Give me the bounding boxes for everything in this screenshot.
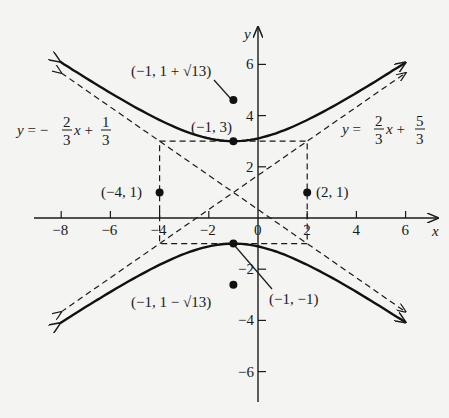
y-tick-label: 4 [246, 108, 254, 124]
eq-left-mid: x + [73, 122, 93, 138]
eq-left-lhs: y = − [15, 122, 48, 138]
eq-right-d1: 3 [375, 131, 383, 147]
x-tick-label: −2 [200, 222, 216, 238]
y-tick-label: 6 [246, 56, 254, 72]
point-focus [229, 96, 237, 104]
eq-left-d2: 3 [102, 132, 110, 148]
leader-focus-top [214, 80, 231, 99]
eq-left-d1: 3 [63, 132, 71, 148]
label-vertex-top: (−1, 3) [191, 119, 232, 136]
eq-right-n2: 5 [416, 113, 424, 129]
point-co-vertex [156, 188, 164, 196]
y-tick-label: −6 [238, 364, 254, 380]
x-tick-label: −6 [101, 222, 117, 238]
y-tick-label: −4 [238, 312, 254, 328]
x-tick-label: 0 [254, 222, 262, 238]
x-tick-label: −4 [151, 222, 167, 238]
point-co-vertex [303, 188, 311, 196]
label-covertex-right: (2, 1) [316, 184, 349, 201]
eq-left-n1: 2 [63, 114, 71, 130]
point-labels: (−1, 3) (−1, −1) (−1, 1 + √13) (−1, 1 − … [101, 63, 349, 311]
label-focus-top: (−1, 1 + √13) [131, 63, 211, 80]
x-ticks: −8−6−4−20246 [52, 211, 409, 238]
label-vertex-bottom: (−1, −1) [269, 291, 318, 308]
leader-lines [214, 80, 272, 289]
x-tick-label: 4 [352, 222, 360, 238]
equation-left: y = − 2 3 x + 1 3 [15, 114, 111, 148]
y-axis-label: y [242, 26, 251, 42]
eq-right-mid: x + [385, 121, 405, 137]
x-axis-label: x [431, 223, 439, 239]
y-tick-label: 2 [246, 159, 254, 175]
point-vertex [229, 137, 237, 145]
eq-right-lhs: y = [340, 121, 361, 137]
equation-right: y = 2 3 x + 5 3 [340, 113, 425, 147]
x-tick-label: −8 [52, 222, 68, 238]
point-vertex [229, 240, 237, 248]
eq-right-d2: 3 [416, 131, 424, 147]
y-tick-label: −2 [238, 261, 254, 277]
label-covertex-left: (−4, 1) [101, 184, 142, 201]
chart-svg: x y −8−6−4−20246 642−2−4−6 (−1, 3) (−1, … [0, 0, 449, 418]
hyperbola-graph: x y −8−6−4−20246 642−2−4−6 (−1, 3) (−1, … [0, 0, 449, 418]
label-focus-bottom: (−1, 1 − √13) [131, 294, 211, 311]
x-tick-label: 6 [402, 222, 410, 238]
eq-right-n1: 2 [375, 113, 383, 129]
eq-left-n2: 1 [102, 114, 110, 130]
point-focus [229, 281, 237, 289]
